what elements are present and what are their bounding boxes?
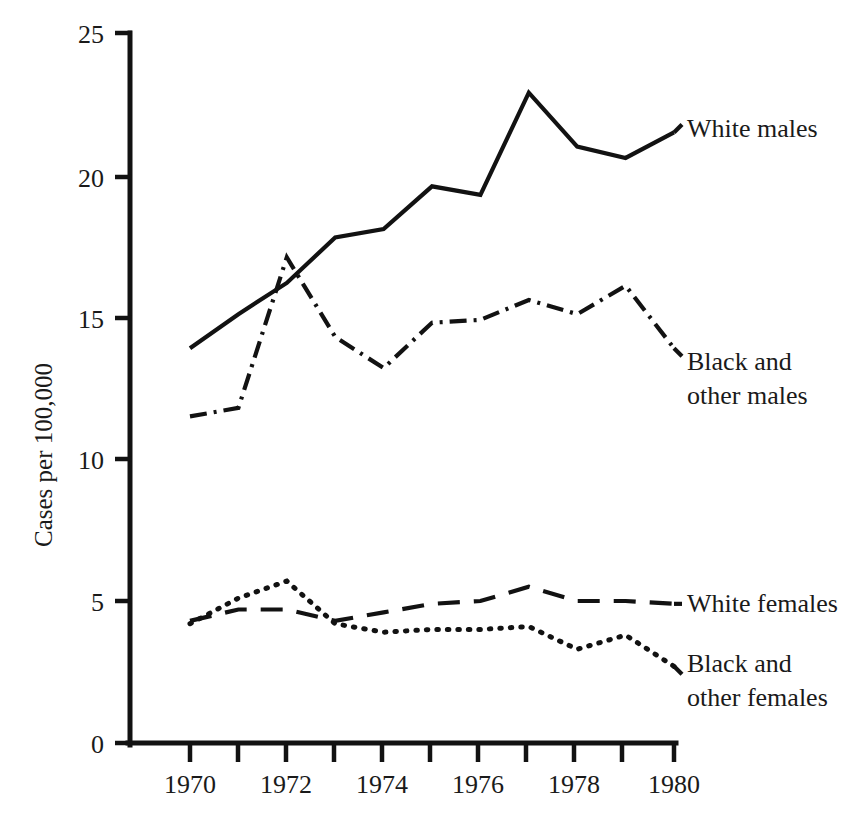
series-line-white-females [190, 587, 674, 621]
x-tick-labels: 1970 1972 1974 1976 1978 1980 [164, 770, 700, 799]
series-leader-0 [674, 124, 682, 132]
series-label-white-males: White males [687, 114, 818, 143]
chart-figure: 25 20 15 10 5 0 1970 1972 1974 1976 1978… [0, 0, 850, 822]
series-label-black-other-males-line2: other males [687, 381, 808, 410]
x-tick-label-1976: 1976 [452, 770, 504, 799]
y-tick-label-20: 20 [78, 164, 104, 193]
x-tick-label-1978: 1978 [548, 770, 600, 799]
y-axis-title: Cases per 100,000 [30, 363, 57, 547]
y-tick-labels: 25 20 15 10 5 0 [78, 20, 104, 759]
x-tick-label-1970: 1970 [164, 770, 216, 799]
series-label-black-other-males-line1: Black and [687, 347, 792, 376]
series-leader-3 [674, 666, 682, 674]
x-tick-label-1974: 1974 [356, 770, 408, 799]
line-chart-canvas: 25 20 15 10 5 0 1970 1972 1974 1976 1978… [0, 0, 850, 822]
series-label-white-females: White females [687, 589, 838, 618]
series-label-black-other-females-line1: Black and [687, 649, 792, 678]
y-tick-label-0: 0 [91, 730, 104, 759]
x-tick-label-1972: 1972 [260, 770, 312, 799]
y-tick-label-5: 5 [91, 588, 104, 617]
series-line-white-males [190, 93, 674, 349]
y-tick-label-25: 25 [78, 20, 104, 49]
series-leader-1 [674, 348, 682, 356]
y-tick-label-15: 15 [78, 305, 104, 334]
axis-group [115, 33, 676, 762]
series-line-black-and-other-females [190, 581, 674, 666]
y-tick-label-10: 10 [78, 446, 104, 475]
series-annotations: White males Black and other males White … [687, 114, 838, 712]
series-label-black-other-females-line2: other females [687, 683, 828, 712]
series-lines [190, 93, 674, 667]
series-line-black-and-other-males [190, 257, 674, 416]
x-tick-label-1980: 1980 [648, 770, 700, 799]
